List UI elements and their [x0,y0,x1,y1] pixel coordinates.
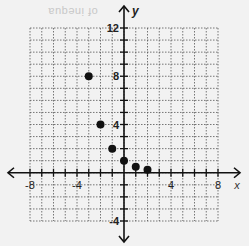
data-point [108,145,116,153]
y-tick-label: 12 [107,22,119,34]
coordinate-plane: -8-4481284-4xy [0,0,249,246]
data-point [120,157,128,165]
x-tick-label: 8 [215,179,221,191]
y-tick-label: 4 [113,119,120,131]
data-point [144,166,152,174]
x-tick-label: -8 [25,179,35,191]
x-axis-label: x [233,179,240,191]
data-point [97,121,105,129]
y-tick-label: 8 [113,70,119,82]
y-axis-label: y [131,4,140,18]
y-tick-label: -4 [109,215,120,227]
tick-labels: -8-4481284-4xy [25,4,240,227]
data-point [85,72,93,80]
data-point [132,163,140,171]
x-tick-label: -4 [72,179,82,191]
x-tick-label: 4 [168,179,174,191]
